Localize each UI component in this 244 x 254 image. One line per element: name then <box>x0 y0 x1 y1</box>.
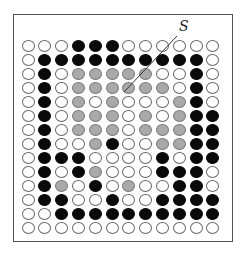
s-label: S <box>179 18 189 34</box>
pointer-line <box>0 0 244 254</box>
